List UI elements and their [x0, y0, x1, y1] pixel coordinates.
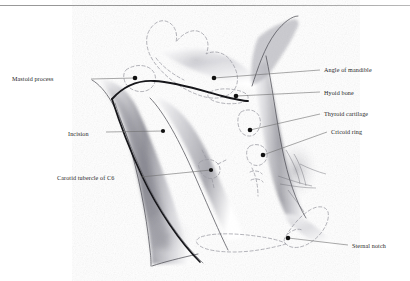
hyoid-bone-outline — [208, 89, 248, 104]
incision-line — [112, 81, 248, 101]
c6-spur-b — [218, 160, 226, 164]
figure-canvas: Mastoid process Incision Carotid tubercl… — [0, 0, 410, 281]
thyroid-cartilage-outline — [238, 110, 261, 136]
marker-sternal-notch — [286, 236, 291, 241]
label-cricoid-ring: Cricoid ring — [331, 129, 362, 135]
label-hyoid-bone: Hyoid bone — [324, 90, 354, 96]
halo-lower-neck — [138, 210, 198, 262]
mastoid-process-outline — [124, 66, 156, 92]
leader-mastoid-process — [91, 78, 135, 79]
label-carotid-tubercle-c6: Carotid tubercle of C6 — [57, 175, 114, 181]
neck-anatomy-illustration — [0, 0, 410, 281]
leader-hyoid-bone — [236, 92, 320, 96]
label-angle-of-mandible: Angle of mandible — [324, 67, 372, 73]
trachea-ring-1 — [250, 171, 262, 174]
trachea-outline — [252, 168, 258, 196]
label-sternal-notch: Sternal notch — [352, 243, 386, 249]
marker-hyoid-bone — [234, 94, 239, 99]
marker-angle-of-mandible — [212, 76, 217, 81]
label-mastoid-process: Mastoid process — [12, 76, 54, 82]
marker-cricoid-ring — [261, 153, 266, 158]
halo-chin — [162, 42, 230, 78]
marker-thyroid-cartilage — [248, 128, 253, 133]
marker-mastoid-process — [133, 76, 138, 81]
label-incision: Incision — [68, 131, 89, 137]
label-thyroid-cartilage: Thyroid cartilage — [324, 111, 368, 117]
ramus-shading — [251, 19, 298, 84]
marker-incision — [161, 129, 165, 133]
marker-carotid-tubercle — [209, 168, 213, 172]
trachea-ring-2 — [251, 179, 263, 182]
